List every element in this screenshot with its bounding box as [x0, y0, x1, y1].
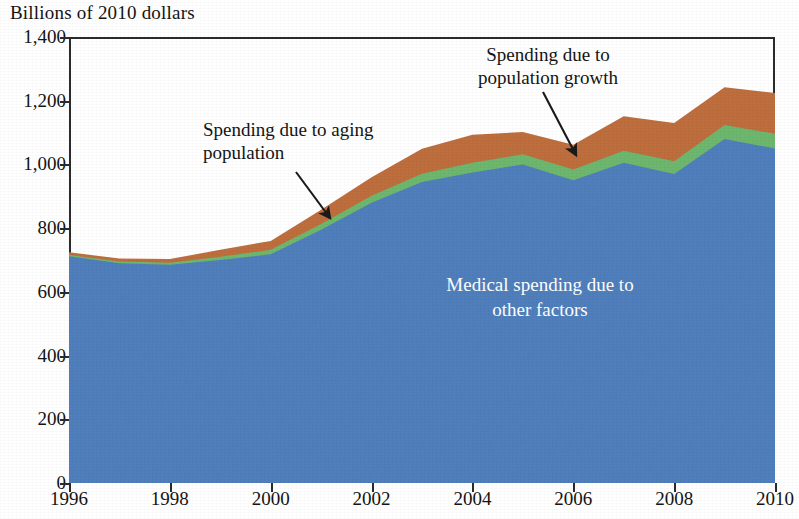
y-tick-mark-0: [60, 483, 69, 485]
x-tick-label-2004: 2004: [437, 489, 507, 509]
y-tick-mark-1200: [60, 101, 69, 103]
x-tick-label-2008: 2008: [639, 489, 709, 509]
y-axis-ticks: 02004006008001,0001,2001,400: [0, 0, 66, 519]
y-tick-label-1000: 1,000: [8, 154, 66, 173]
x-tick-mark-2008: [674, 483, 676, 492]
x-tick-label-2010: 2010: [740, 489, 799, 509]
x-tick-mark-2002: [372, 483, 374, 492]
x-tick-label-2000: 2000: [236, 489, 306, 509]
y-tick-mark-200: [60, 419, 69, 421]
x-tick-label-2006: 2006: [538, 489, 608, 509]
stacked-area-series: [69, 37, 775, 483]
y-tick-mark-1400: [60, 37, 69, 39]
x-tick-mark-1996: [69, 483, 71, 492]
x-tick-mark-2004: [472, 483, 474, 492]
x-tick-mark-1998: [170, 483, 172, 492]
annotation-other-factors: Medical spending due to other factors: [420, 272, 660, 322]
y-tick-mark-400: [60, 356, 69, 358]
y-tick-mark-1000: [60, 164, 69, 166]
y-tick-mark-800: [60, 228, 69, 230]
x-tick-mark-2000: [271, 483, 273, 492]
y-tick-label-200: 200: [8, 409, 66, 428]
y-tick-mark-600: [60, 292, 69, 294]
x-tick-mark-2006: [573, 483, 575, 492]
annotation-aging-population: Spending due to aging population: [203, 118, 418, 164]
x-tick-mark-2010: [775, 483, 777, 492]
y-tick-label-1200: 1,200: [8, 91, 66, 110]
y-tick-label-800: 800: [8, 218, 66, 237]
x-tick-label-1996: 1996: [34, 489, 104, 509]
y-tick-label-1400: 1,400: [8, 27, 66, 46]
annotation-population-growth: Spending due to population growth: [443, 43, 653, 89]
y-tick-label-600: 600: [8, 282, 66, 301]
x-tick-label-2002: 2002: [337, 489, 407, 509]
y-tick-label-400: 400: [8, 346, 66, 365]
x-tick-label-1998: 1998: [135, 489, 205, 509]
area-chart: Billions of 2010 dollars 02004006008001,…: [0, 0, 799, 519]
